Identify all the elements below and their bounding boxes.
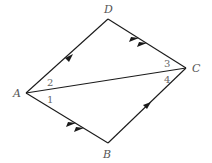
angle-label-4: 4 — [164, 74, 170, 85]
vertex-label-c: C — [192, 62, 201, 75]
angle-label-3: 3 — [164, 58, 170, 69]
edge-dc — [108, 19, 186, 68]
angle-label-1: 1 — [47, 94, 53, 105]
vertex-label-a: A — [12, 87, 21, 100]
parallelogram-diagram: D A C B 2 1 3 4 — [0, 0, 212, 163]
single-arrow-icon-ad — [65, 54, 73, 62]
edge-ab — [26, 93, 108, 143]
vertex-label-d: D — [103, 3, 113, 16]
vertex-label-b: B — [102, 148, 111, 161]
angle-label-2: 2 — [47, 77, 53, 88]
